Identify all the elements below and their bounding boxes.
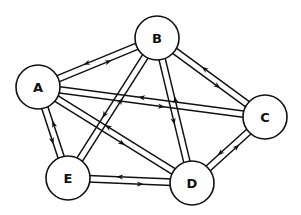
arrow-forward-icon xyxy=(102,111,108,118)
edge-a-e xyxy=(41,105,65,160)
edge-line xyxy=(88,176,172,179)
graph-diagram: ABCDE xyxy=(0,0,301,215)
edge-a-b xyxy=(55,43,139,83)
node-label: D xyxy=(187,176,198,191)
node-b: B xyxy=(135,16,179,60)
nodes-layer: ABCDE xyxy=(16,16,287,205)
node-c: C xyxy=(243,95,287,139)
edge-line xyxy=(159,58,185,164)
node-label: B xyxy=(152,31,162,46)
node-e: E xyxy=(46,156,90,200)
node-label: A xyxy=(33,80,43,95)
node-a: A xyxy=(16,65,60,109)
edge-line xyxy=(175,47,251,102)
edge-line xyxy=(55,43,137,77)
node-label: C xyxy=(260,110,270,125)
edge-b-d xyxy=(159,57,191,165)
edge-line xyxy=(58,86,245,111)
arrow-reverse-icon xyxy=(117,98,123,105)
arrow-forward-icon xyxy=(118,139,125,145)
node-label: E xyxy=(64,171,73,186)
edge-d-e xyxy=(88,174,172,186)
arrow-reverse-icon xyxy=(105,125,112,131)
edge-line xyxy=(205,128,248,167)
node-d: D xyxy=(170,161,214,205)
edge-b-c xyxy=(171,47,250,108)
edge-c-d xyxy=(205,128,253,172)
edge-line xyxy=(209,133,252,172)
edge-line xyxy=(57,93,244,118)
edge-line xyxy=(171,52,247,107)
edge-line xyxy=(88,182,172,185)
